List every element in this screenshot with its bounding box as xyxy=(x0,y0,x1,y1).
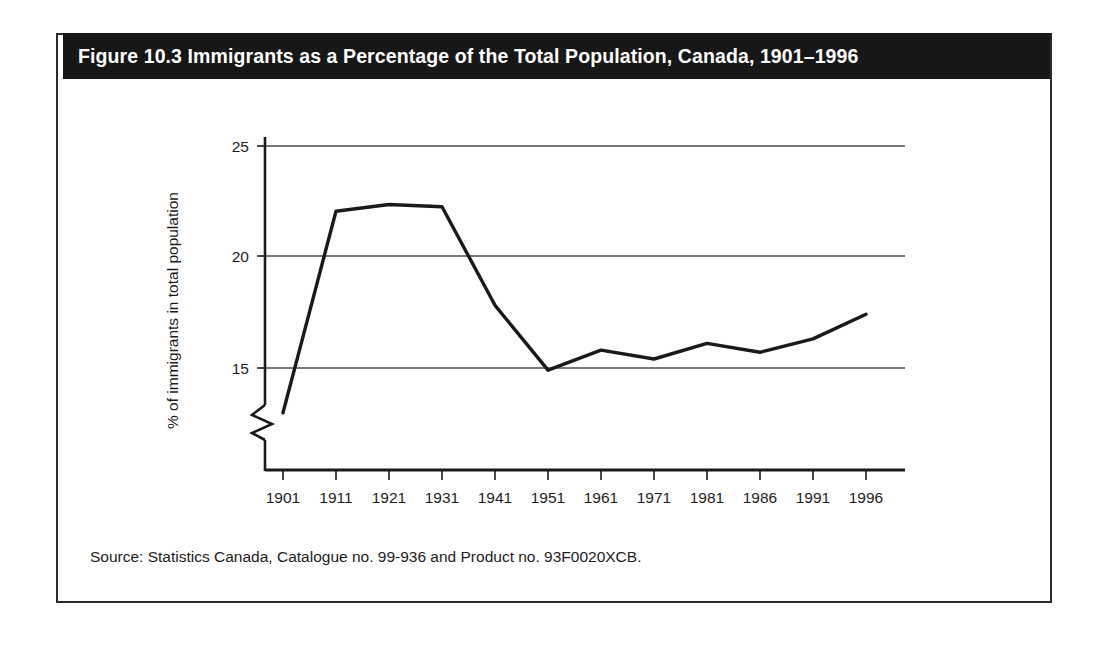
figure-title: Figure 10.3 Immigrants as a Percentage o… xyxy=(63,45,858,68)
x-tick-label-1991: 1991 xyxy=(796,489,830,506)
figure-title-bar: Figure 10.3 Immigrants as a Percentage o… xyxy=(63,33,1050,79)
x-tick-label-1971: 1971 xyxy=(637,489,671,506)
x-tick-label-1951: 1951 xyxy=(531,489,565,506)
x-axis-ticks xyxy=(283,470,866,480)
x-tick-label-1911: 1911 xyxy=(319,489,352,506)
line-chart-svg: % of immigrants in total population 25 2… xyxy=(56,79,1052,529)
y-tick-label-20: 20 xyxy=(232,248,250,265)
x-tick-label-1986: 1986 xyxy=(743,489,777,506)
immigrant-percentage-line xyxy=(283,205,866,413)
x-tick-label-1921: 1921 xyxy=(372,489,406,506)
chart-plot-area: % of immigrants in total population 25 2… xyxy=(56,79,1052,529)
y-tick-label-25: 25 xyxy=(232,138,249,155)
x-tick-label-1981: 1981 xyxy=(690,489,724,506)
x-tick-label-1931: 1931 xyxy=(425,489,459,506)
x-tick-label-1996: 1996 xyxy=(849,489,883,506)
x-tick-label-1961: 1961 xyxy=(584,489,618,506)
x-tick-label-1941: 1941 xyxy=(478,489,512,506)
x-axis-labels: 1901 1911 1921 1931 1941 1951 1961 1971 … xyxy=(266,489,883,506)
gridlines xyxy=(265,146,905,368)
y-axis-title: % of immigrants in total population xyxy=(164,192,181,429)
source-note: Source: Statistics Canada, Catalogue no.… xyxy=(90,548,641,566)
y-tick-label-15: 15 xyxy=(232,360,249,377)
x-tick-label-1901: 1901 xyxy=(266,489,300,506)
y-axis-break-zigzag xyxy=(252,405,272,440)
